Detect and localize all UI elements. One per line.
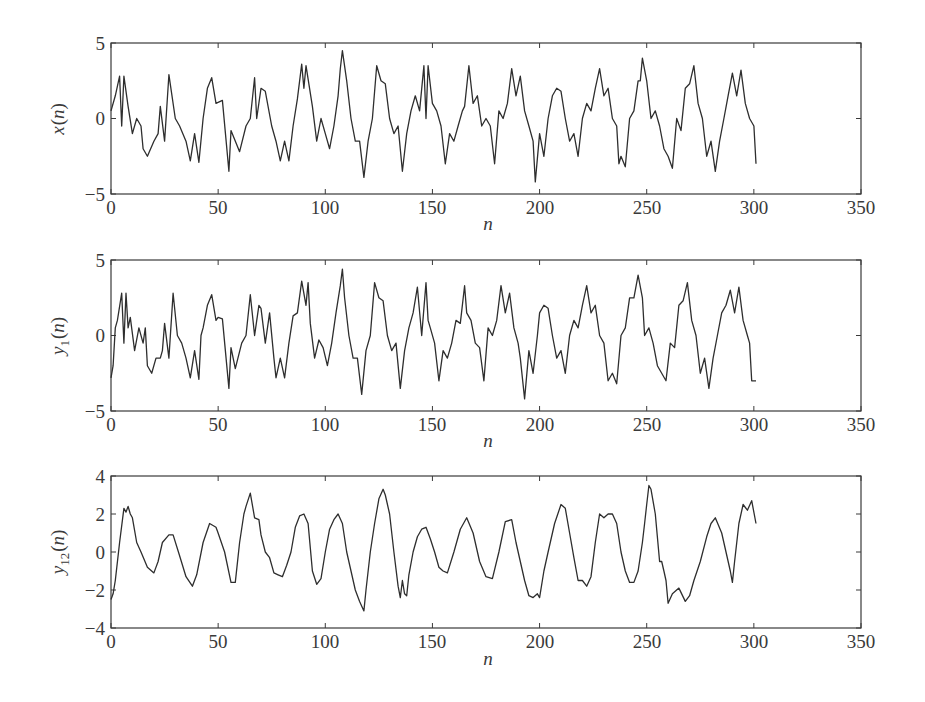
ytick-labels-x: 5 0 −5 [85,33,105,205]
xtick-label: 0 [106,414,116,435]
ytick-label: −2 [85,580,105,601]
xtick-label: 50 [209,414,228,435]
figure: 0 50 100 150 200 250 300 350 5 0 −5 n x(… [0,0,925,702]
ylabel-y12: y12(n) [47,530,72,577]
xtick-label: 50 [209,631,228,652]
xtick-label: 50 [209,197,228,218]
subplot-y12: 0 50 100 150 200 250 300 350 4 2 0 −2 −4… [47,466,875,669]
xtick-label: 200 [526,414,555,435]
xtick-label: 0 [106,197,116,218]
subplot-y1: 0 50 100 150 200 250 300 350 5 0 −5 n y1… [47,250,875,451]
xtick-label: 100 [311,414,340,435]
xtick-label: 150 [418,631,447,652]
xtick-label: 350 [847,197,876,218]
xtick-label: 300 [740,414,769,435]
xtick-label: 250 [633,414,662,435]
series-line-y12 [111,486,756,611]
xtick-label: 300 [740,631,769,652]
xtick-label: 350 [847,631,876,652]
xtick-label: 100 [311,197,340,218]
xtick-label: 150 [418,414,447,435]
ytick-label: 0 [96,325,106,346]
ytick-label: 4 [96,466,106,487]
xtick-label: 0 [106,631,116,652]
ylabel-x: x(n) [47,103,69,136]
ytick-label: 0 [96,542,106,563]
xtick-label: 200 [526,631,555,652]
xlabel-y1: n [483,430,493,451]
ytick-label: 5 [96,33,106,54]
xtick-label: 200 [526,197,555,218]
subplot-x: 0 50 100 150 200 250 300 350 5 0 −5 n x(… [47,33,875,234]
ytick-label: −5 [85,401,105,422]
plot-area-y12 [111,476,861,628]
xtick-label: 350 [847,414,876,435]
ytick-label: 2 [96,504,106,525]
series-line-y1 [111,269,756,399]
xtick-label: 250 [633,197,662,218]
ylabel-y1: y1(n) [47,317,72,357]
series-line-x [111,51,756,182]
ytick-labels-y12: 4 2 0 −2 −4 [85,466,106,639]
ytick-label: 0 [96,108,106,129]
ytick-label: −4 [85,618,106,639]
xtick-label: 300 [740,197,769,218]
ytick-label: −5 [85,184,105,205]
xtick-label: 250 [633,631,662,652]
xlabel-y12: n [483,648,493,669]
ytick-label: 5 [96,250,106,271]
ytick-labels-y1: 5 0 −5 [85,250,105,422]
ticks-y12 [111,476,861,628]
xlabel-x: n [483,213,493,234]
xtick-label: 100 [311,631,340,652]
xtick-label: 150 [418,197,447,218]
